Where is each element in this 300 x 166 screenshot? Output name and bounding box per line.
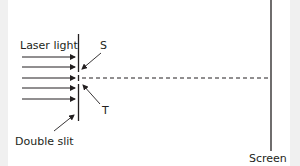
slit-t-pointer-arrow (83, 85, 100, 104)
screen-label: Screen (249, 153, 287, 164)
laser-light-label: Laser light (20, 40, 78, 51)
double-slit-label: Double slit (15, 136, 74, 147)
laser-light-arrows (22, 57, 75, 99)
slit-s-pointer-arrow (82, 53, 101, 69)
slit-s-label: S (100, 40, 107, 51)
double-slit-pointer-arrow (54, 115, 74, 131)
slit-t-label: T (102, 105, 109, 116)
